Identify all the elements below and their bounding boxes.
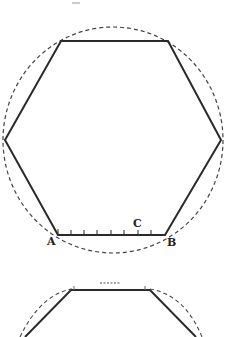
hexagon-figure-2 [20,283,202,337]
label-a: A [46,235,56,248]
diagram-canvas: A B C [0,0,229,337]
circumscribed-circle [3,27,223,253]
partial-hexagon [25,290,196,337]
label-c: C [133,217,142,230]
label-b: B [167,236,176,249]
hexagon-figure: A B C [3,27,223,253]
circle-arc-right [150,289,202,337]
hexagon [5,41,221,235]
